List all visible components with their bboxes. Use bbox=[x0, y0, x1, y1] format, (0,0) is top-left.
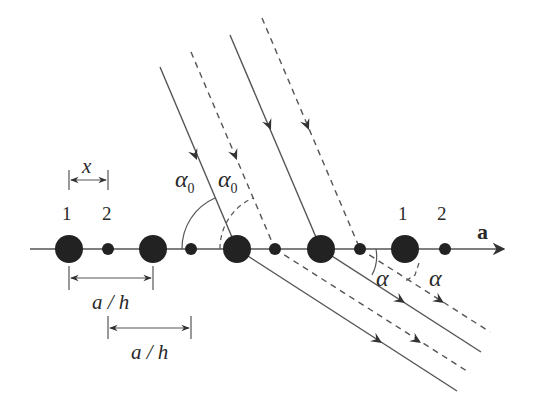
axis-label-a: a bbox=[477, 221, 488, 243]
lattice-diffraction-diagram: x 1 2 1 2 a a / h a / h α0 α0 α α bbox=[0, 0, 535, 409]
incident-ray-dashed-1 bbox=[191, 52, 275, 249]
incident-angle-label-2: α0 bbox=[218, 167, 238, 191]
period-label-2: a / h bbox=[131, 342, 168, 363]
incident-angle-arc-solid bbox=[182, 198, 215, 249]
scattered-angle-label-1: α bbox=[376, 266, 389, 290]
alpha-subscript: 0 bbox=[231, 181, 238, 196]
atom-2-label-right: 2 bbox=[437, 204, 447, 223]
scattered-angle-label-2: α bbox=[429, 266, 442, 290]
atom-2-label-left: 2 bbox=[102, 204, 112, 223]
diagram-graphics bbox=[0, 0, 535, 409]
scattered-rays bbox=[237, 249, 490, 391]
atom-1-label-right: 1 bbox=[398, 204, 408, 223]
incident-ray-solid-2 bbox=[230, 35, 321, 249]
incident-ray-solid-1 bbox=[160, 67, 237, 249]
incident-angle-label-1: α0 bbox=[175, 167, 195, 191]
dimension-period-1 bbox=[69, 266, 153, 290]
alpha-subscript: 0 bbox=[188, 181, 195, 196]
atom-1-label-left: 1 bbox=[62, 204, 72, 223]
alpha-symbol: α bbox=[175, 166, 188, 192]
period-label-1: a / h bbox=[92, 292, 129, 313]
dimension-x-label: x bbox=[82, 156, 91, 177]
scattered-ray-solid-1 bbox=[237, 249, 457, 391]
scattered-arrowheads bbox=[370, 293, 447, 347]
dimension-period-2 bbox=[108, 316, 191, 339]
incident-arrowheads bbox=[188, 118, 314, 162]
incident-rays bbox=[160, 18, 360, 249]
incident-ray-dashed-2 bbox=[262, 18, 360, 249]
alpha-symbol: α bbox=[218, 166, 231, 192]
